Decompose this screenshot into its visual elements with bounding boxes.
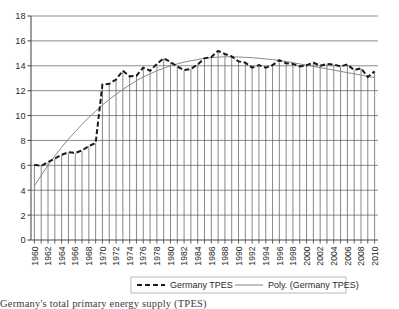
x-tick-label: 1962 bbox=[43, 246, 53, 265]
chart-figure: 024681012141618 196019621964196619681970… bbox=[0, 0, 399, 309]
x-tick-label: 1964 bbox=[57, 246, 67, 265]
figure-caption: Germany's total primary energy supply (T… bbox=[0, 298, 399, 309]
x-tick-label: 2004 bbox=[329, 246, 339, 265]
x-tick-label: 2002 bbox=[315, 246, 325, 265]
legend-label-poly-trendline: Poly. (Germany TPES) bbox=[268, 280, 359, 290]
legend-label-germany-tpes: Germany TPES bbox=[170, 280, 233, 290]
x-tick-label: 1998 bbox=[288, 246, 298, 265]
y-tick-label: 0 bbox=[20, 235, 25, 245]
x-tick-label: 1972 bbox=[111, 246, 121, 265]
y-tick-label: 4 bbox=[20, 186, 25, 196]
x-tick-label: 1974 bbox=[125, 246, 135, 265]
x-tick-label: 1960 bbox=[30, 246, 40, 265]
y-tick-label: 6 bbox=[20, 161, 25, 171]
x-tick-label: 2010 bbox=[370, 246, 380, 265]
x-tick-label: 1992 bbox=[247, 246, 257, 265]
y-tick-label: 10 bbox=[15, 111, 25, 121]
x-tick-label: 1978 bbox=[152, 246, 162, 265]
y-tick-label: 2 bbox=[20, 211, 25, 221]
y-tick-label: 8 bbox=[20, 136, 25, 146]
y-tick-label: 12 bbox=[15, 86, 25, 96]
x-tick-label: 1982 bbox=[179, 246, 189, 265]
x-tick-label: 1994 bbox=[261, 246, 271, 265]
x-tick-label: 1990 bbox=[234, 246, 244, 265]
x-tick-label: 1968 bbox=[84, 246, 94, 265]
x-tick-label: 1980 bbox=[166, 246, 176, 265]
y-tick-label: 16 bbox=[15, 36, 25, 46]
x-tick-label: 1966 bbox=[70, 246, 80, 265]
y-tick-label: 14 bbox=[15, 61, 25, 71]
tpes-line-chart: 024681012141618 196019621964196619681970… bbox=[0, 0, 399, 309]
x-tick-label: 1986 bbox=[207, 246, 217, 265]
x-tick-label: 2000 bbox=[302, 246, 312, 265]
x-tick-label: 2006 bbox=[343, 246, 353, 265]
y-tick-label: 18 bbox=[15, 11, 25, 21]
x-tick-label: 1996 bbox=[275, 246, 285, 265]
x-tick-label: 1984 bbox=[193, 246, 203, 265]
x-tick-label: 1988 bbox=[220, 246, 230, 265]
x-tick-label: 1970 bbox=[98, 246, 108, 265]
chart-legend: Germany TPESPoly. (Germany TPES) bbox=[131, 277, 359, 293]
x-tick-label: 2008 bbox=[356, 246, 366, 265]
x-tick-label: 1976 bbox=[138, 246, 148, 265]
